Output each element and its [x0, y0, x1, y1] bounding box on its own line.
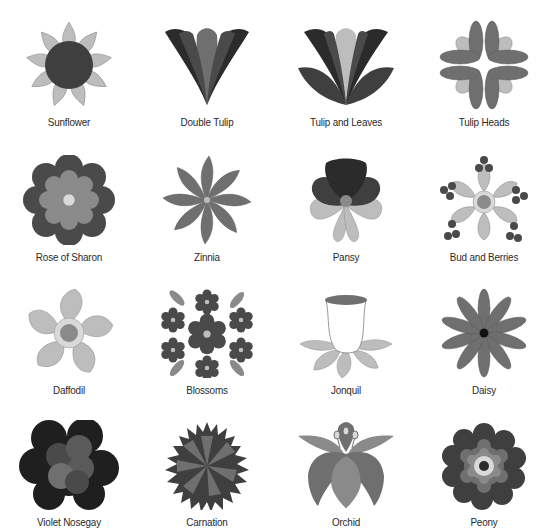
- flower-label: Tulip and Leaves: [287, 116, 406, 128]
- flower-label: Blossoms: [148, 384, 267, 396]
- violet-nosegay-icon: [19, 420, 119, 510]
- flower-card-daffodil: Daffodil: [0, 268, 138, 400]
- flower-card-peony: Peony: [415, 400, 553, 529]
- flower-label: Double Tulip: [148, 116, 267, 128]
- flower-label: Zinnia: [148, 251, 267, 263]
- pansy-icon: [296, 155, 396, 245]
- flower-label: Orchid: [287, 516, 406, 528]
- flower-card-orchid: Orchid: [277, 400, 415, 529]
- tulip-and-leaves-icon: [296, 20, 396, 110]
- flower-label: Sunflower: [10, 116, 129, 128]
- flower-label: Violet Nosegay: [10, 516, 129, 528]
- flower-label: Jonquil: [287, 384, 406, 396]
- tulip-heads-icon: [434, 20, 534, 110]
- jonquil-icon: [296, 288, 396, 378]
- rose-of-sharon-icon: [19, 155, 119, 245]
- blossoms-icon: [157, 288, 257, 378]
- flower-label: Rose of Sharon: [10, 251, 129, 263]
- daffodil-icon: [19, 288, 119, 378]
- peony-icon: [434, 420, 534, 510]
- orchid-icon: [296, 420, 396, 510]
- flower-card-pansy: Pansy: [277, 135, 415, 267]
- zinnia-icon: [157, 155, 257, 245]
- flower-label: Peony: [425, 516, 544, 528]
- flower-card-carnation: Carnation: [138, 400, 276, 529]
- flower-card-zinnia: Zinnia: [138, 135, 276, 267]
- flower-label: Bud and Berries: [425, 251, 544, 263]
- carnation-icon: [157, 420, 257, 510]
- flower-label: Pansy: [287, 251, 406, 263]
- bud-and-berries-icon: [434, 155, 534, 245]
- flower-grid: Sunflower Double Tulip Tulip and Leaves: [0, 0, 554, 529]
- flower-card-tulip-and-leaves: Tulip and Leaves: [277, 0, 415, 132]
- flower-label: Daisy: [425, 384, 544, 396]
- flower-card-rose-of-sharon: Rose of Sharon: [0, 135, 138, 267]
- daisy-icon: [434, 288, 534, 378]
- flower-card-blossoms: Blossoms: [138, 268, 276, 400]
- flower-label: Carnation: [148, 516, 267, 528]
- flower-card-jonquil: Jonquil: [277, 268, 415, 400]
- flower-card-bud-and-berries: Bud and Berries: [415, 135, 553, 267]
- flower-card-sunflower: Sunflower: [0, 0, 138, 132]
- flower-card-violet-nosegay: Violet Nosegay: [0, 400, 138, 529]
- flower-card-daisy: Daisy: [415, 268, 553, 400]
- flower-card-tulip-heads: Tulip Heads: [415, 0, 553, 132]
- sunflower-icon: [19, 20, 119, 110]
- flower-card-double-tulip: Double Tulip: [138, 0, 276, 132]
- double-tulip-icon: [157, 20, 257, 110]
- flower-label: Tulip Heads: [425, 116, 544, 128]
- flower-label: Daffodil: [10, 384, 129, 396]
